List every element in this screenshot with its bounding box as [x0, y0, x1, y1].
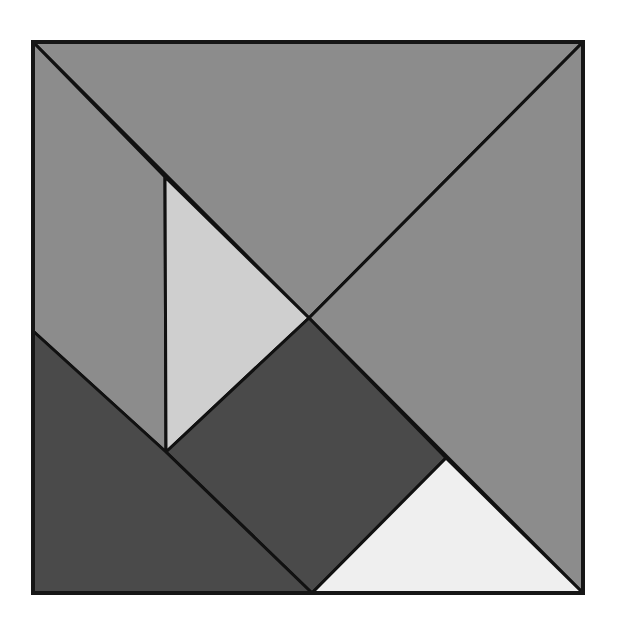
tangram-diagram [0, 0, 619, 624]
